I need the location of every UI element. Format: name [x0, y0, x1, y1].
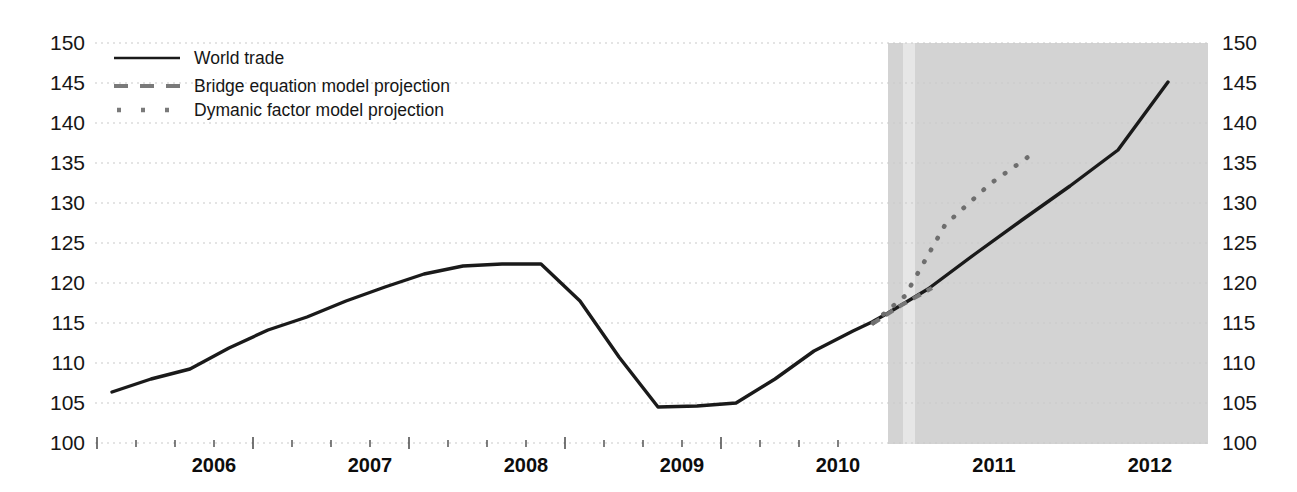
y-right-tick: 120 [1222, 271, 1257, 294]
y-right-tick: 115 [1222, 311, 1255, 334]
y-left-tick: 125 [50, 231, 85, 254]
y-right-tick: 140 [1222, 111, 1257, 134]
y-left-tick: 110 [52, 351, 85, 374]
y-right-tick: 105 [1222, 391, 1257, 414]
y-right-tick: 150 [1222, 31, 1257, 54]
x-tick-2011: 2011 [972, 454, 1015, 476]
y-right-tick: 100 [1222, 431, 1257, 454]
y-left-tick: 105 [50, 391, 85, 414]
y-right-tick: 125 [1222, 231, 1257, 254]
world-trade-chart: World trade Bridge equation model projec… [0, 0, 1297, 492]
x-tick-2008: 2008 [504, 454, 549, 476]
legend-label-dynamic-factor: Dymanic factor model projection [194, 100, 444, 120]
legend-label-world-trade: World trade [194, 48, 284, 68]
y-right-tick: 135 [1222, 151, 1257, 174]
y-left-tick: 150 [50, 31, 85, 54]
x-tick-2012: 2012 [1128, 454, 1173, 476]
y-left-tick: 120 [50, 271, 85, 294]
y-right-tick: 145 [1222, 71, 1257, 94]
legend-label-bridge-equation: Bridge equation model projection [194, 76, 450, 96]
x-tick-2010: 2010 [816, 454, 861, 476]
y-left-tick: 135 [50, 151, 85, 174]
y-left-tick: 100 [50, 431, 85, 454]
y-left-tick: 140 [50, 111, 85, 134]
y-right-tick: 110 [1222, 351, 1255, 374]
x-tick-2006: 2006 [192, 454, 237, 476]
y-right-tick: 130 [1222, 191, 1257, 214]
y-left-tick: 145 [50, 71, 85, 94]
x-tick-2009: 2009 [660, 454, 705, 476]
x-tick-2007: 2007 [348, 454, 393, 476]
chart-canvas: World trade Bridge equation model projec… [0, 0, 1297, 492]
y-left-tick: 130 [50, 191, 85, 214]
y-left-tick: 115 [52, 311, 85, 334]
